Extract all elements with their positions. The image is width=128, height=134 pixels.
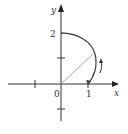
y-axis-arrow-icon bbox=[58, 4, 64, 12]
radius-segment bbox=[61, 54, 93, 84]
direction-arrow-icon bbox=[99, 58, 103, 73]
x-tick-label-1: 1 bbox=[86, 89, 92, 99]
polar-diagram: y 2 0 1 x bbox=[0, 0, 128, 134]
x-axis-arrow-icon bbox=[112, 81, 119, 87]
y-axis-label: y bbox=[50, 5, 57, 15]
y-tick-label-2: 2 bbox=[50, 29, 56, 39]
x-axis-label: x bbox=[114, 88, 119, 98]
y-axis bbox=[57, 4, 65, 121]
polar-curve bbox=[61, 33, 96, 84]
origin-label: 0 bbox=[54, 89, 60, 99]
